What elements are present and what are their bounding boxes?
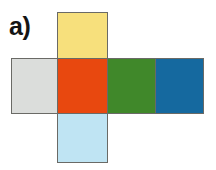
figure-root: a): [0, 0, 216, 170]
cube-net-diagram: [0, 0, 216, 170]
cube-net-face-left: [11, 58, 58, 114]
cube-net-face-front: [57, 58, 108, 114]
cube-net-face-right: [107, 58, 156, 114]
cube-net-face-bottom: [57, 113, 108, 163]
cube-net-face-back: [155, 58, 204, 114]
cube-net-face-top: [57, 12, 108, 59]
